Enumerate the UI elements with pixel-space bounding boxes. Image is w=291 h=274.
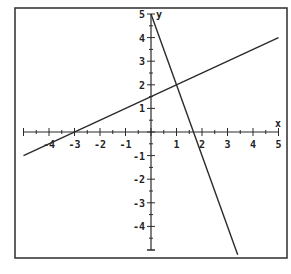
x-tick-label: -3: [68, 139, 80, 150]
y-tick-label: 5: [139, 9, 145, 20]
x-tick-label: -2: [94, 139, 106, 150]
x-axis-label: x: [275, 118, 281, 129]
y-tick-label: -1: [133, 151, 145, 162]
axis-tick-labels: -4-3-2-11234554321-1-2-3-4: [43, 9, 282, 232]
x-tick-label: -1: [119, 139, 131, 150]
y-tick-label: -2: [133, 174, 145, 185]
y-tick-label: -3: [133, 198, 145, 209]
y-tick-label: 3: [139, 56, 145, 67]
x-tick-label: 3: [224, 139, 230, 150]
x-tick-label: 4: [250, 139, 256, 150]
coordinate-plane: -4-3-2-11234554321-1-2-3-4 x y: [0, 0, 291, 274]
line-2: [151, 14, 238, 255]
y-tick-label: 1: [139, 103, 145, 114]
y-axis-label: y: [156, 9, 162, 20]
x-tick-label: 5: [275, 139, 281, 150]
y-tick-label: 4: [139, 33, 145, 44]
x-tick-label: 1: [173, 139, 179, 150]
y-tick-label: -4: [133, 221, 145, 232]
axis-ticks: [24, 14, 279, 250]
y-tick-label: 2: [139, 80, 145, 91]
